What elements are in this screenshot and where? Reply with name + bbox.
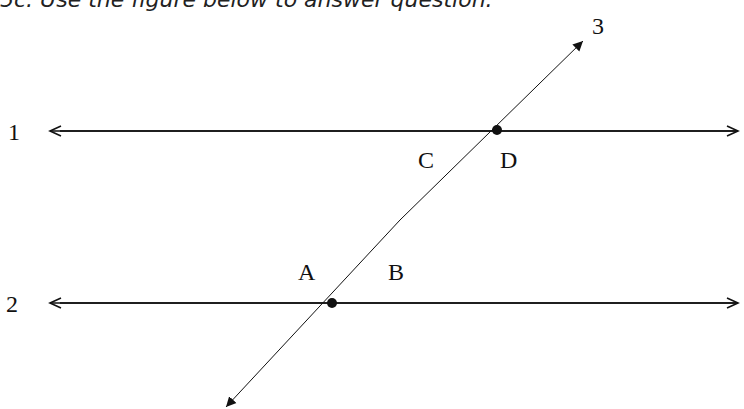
angle-label-a: A — [298, 259, 316, 285]
angle-label-c: C — [418, 147, 434, 173]
intersection-point-2-3 — [327, 298, 337, 308]
angle-label-d: D — [500, 147, 517, 173]
line-label-3: 3 — [592, 13, 604, 39]
line-label-2: 2 — [6, 291, 18, 317]
parallel-lines-diagram: 1 2 3 C D A B — [0, 0, 744, 409]
line-label-1: 1 — [8, 119, 20, 145]
intersection-point-1-3 — [492, 125, 502, 135]
angle-label-b: B — [388, 259, 404, 285]
line-3-transversal — [226, 41, 583, 407]
